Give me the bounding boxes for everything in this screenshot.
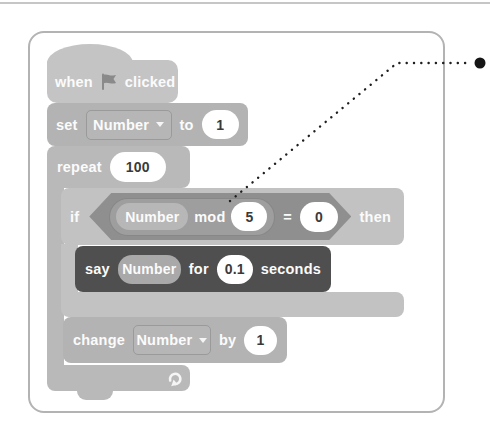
loop-arrow-icon [166, 370, 183, 387]
green-flag-icon [99, 73, 119, 90]
by-label: by [219, 332, 236, 348]
equals-boolean-block[interactable]: Number mod 5 = 0 [89, 193, 351, 240]
repeat-label: repeat [57, 159, 102, 175]
equals-value-input[interactable]: 0 [300, 202, 338, 232]
repeat-block-bottom-bump [77, 390, 113, 400]
mod-value-input[interactable]: 5 [231, 202, 267, 231]
say-duration-input[interactable]: 0.1 [217, 255, 253, 284]
repeat-block[interactable]: repeat 100 [47, 146, 190, 188]
say-variable-pill[interactable]: Number [118, 255, 181, 284]
repeat-count-input[interactable]: 100 [110, 152, 166, 182]
mod-reporter-block[interactable]: Number mod 5 [109, 198, 275, 236]
callout-bullet [475, 58, 486, 69]
change-variable-name: Number [136, 332, 192, 348]
change-variable-block[interactable]: change Number by 1 [63, 317, 287, 363]
page-top-rule [0, 2, 490, 4]
change-value-input[interactable]: 1 [244, 326, 277, 355]
say-block[interactable]: say Number for 0.1 seconds [75, 246, 331, 292]
seconds-label: seconds [261, 261, 321, 277]
chevron-down-icon [156, 122, 164, 127]
set-variable-dropdown[interactable]: Number [86, 110, 172, 140]
repeat-block-foot [47, 365, 190, 391]
for-label: for [189, 261, 209, 277]
set-variable-block[interactable]: set Number to 1 [47, 103, 248, 146]
if-block-foot [61, 292, 404, 317]
clicked-label: clicked [125, 74, 176, 90]
variable-number-pill[interactable]: Number [116, 203, 188, 230]
to-label: to [180, 117, 194, 133]
change-variable-dropdown[interactable]: Number [133, 325, 211, 355]
when-clicked-block[interactable]: when clicked [47, 60, 178, 103]
chevron-down-icon [199, 338, 207, 343]
set-label: set [56, 117, 78, 133]
change-label: change [73, 332, 125, 348]
when-label: when [55, 74, 93, 90]
scratch-script-figure: when clicked set Number to 1 repeat 100 [0, 0, 490, 435]
mod-label: mod [194, 209, 225, 225]
equals-sign: = [283, 209, 292, 225]
say-label: say [85, 261, 110, 277]
set-value-input[interactable]: 1 [202, 110, 239, 139]
if-block[interactable]: if Number mod 5 = 0 then [61, 188, 404, 245]
set-variable-name: Number [93, 117, 149, 133]
if-label: if [70, 209, 79, 225]
then-label: then [360, 209, 391, 225]
